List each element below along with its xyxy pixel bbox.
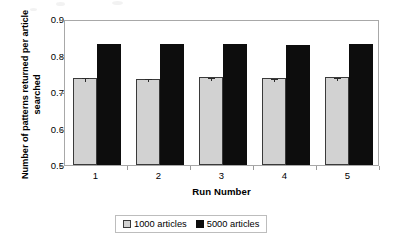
bar-group [65,21,128,165]
plot-area [64,20,379,166]
bar-series2-run-4 [286,45,310,165]
scan-artifact [112,1,123,5]
legend-item-1: 1000 articles [123,219,187,229]
legend-swatch-icon [123,220,131,228]
x-tick-label: 4 [253,170,316,181]
bar-group [128,21,191,165]
bar-group [254,21,317,165]
y-axis-ticks: 0.50.60.70.80.9 [33,20,64,166]
x-tick-label: 3 [190,170,253,181]
error-bar-cap [208,78,215,79]
x-tick-label: 2 [127,170,190,181]
x-axis-title: Run Number [64,186,379,197]
error-bar-cap [271,79,278,80]
x-tick-label: 5 [316,170,379,181]
legend-label: 5000 articles [207,219,260,229]
chart-legend: 1000 articles5000 articles [115,215,267,233]
bar-group [191,21,254,165]
bar-series1-run-5 [325,77,349,165]
scan-artifact [56,2,65,6]
error-bar-cap [334,78,341,79]
bar-group [317,21,380,165]
bar-series1-run-2 [136,79,160,166]
x-tick-mark [379,166,380,170]
chart-figure: Number of patterns returned per article … [0,0,393,241]
bar-series2-run-3 [223,44,247,165]
legend-label: 1000 articles [134,219,187,229]
bar-series1-run-1 [73,78,97,165]
legend-item-2: 5000 articles [196,219,260,229]
error-bar-cap [82,78,89,79]
bar-series2-run-2 [160,44,184,165]
plot-inner [65,21,378,165]
bar-series1-run-4 [262,78,286,165]
bar-series2-run-5 [349,44,373,165]
x-axis-ticks: 12345 [64,170,379,184]
x-tick-label: 1 [64,170,127,181]
error-bar-cap [145,79,152,80]
legend-swatch-icon [196,220,204,228]
bar-series2-run-1 [97,44,121,165]
y-tick-mark [59,166,64,167]
bar-series1-run-3 [199,77,223,165]
